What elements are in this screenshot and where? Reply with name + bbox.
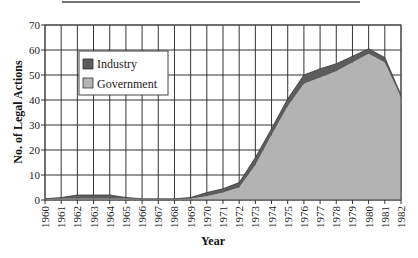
y-tick-label: 30 [29, 119, 41, 131]
y-axis-ticks: 010203040506070 [29, 19, 45, 206]
x-tick-label: 1978 [330, 206, 342, 229]
y-tick-label: 0 [35, 194, 41, 206]
x-tick-label: 1973 [249, 206, 261, 229]
x-tick-label: 1967 [152, 206, 164, 229]
x-tick-label: 1963 [88, 206, 100, 229]
x-tick-label: 1970 [201, 206, 213, 229]
y-tick-label: 70 [29, 19, 41, 31]
y-tick-label: 60 [29, 44, 41, 56]
legend-swatch-industry [83, 59, 93, 69]
x-tick-label: 1972 [233, 206, 245, 228]
x-tick-label: 1968 [168, 206, 180, 229]
x-tick-label: 1964 [104, 206, 116, 229]
x-tick-label: 1969 [185, 206, 197, 229]
x-tick-label: 1982 [395, 206, 407, 228]
x-tick-label: 1966 [136, 206, 148, 229]
chart: 010203040506070 196019611962196319641965… [0, 0, 418, 258]
x-tick-label: 1980 [363, 206, 375, 229]
x-tick-label: 1974 [266, 206, 278, 229]
x-tick-label: 1977 [314, 206, 326, 229]
x-axis-title: Year [201, 234, 226, 248]
y-tick-label: 10 [29, 169, 41, 181]
y-tick-label: 50 [29, 69, 41, 81]
y-axis-title: No. of Legal Actions [11, 60, 25, 164]
legend: Industry Government [79, 51, 168, 95]
legend-swatch-government [83, 78, 93, 88]
x-tick-label: 1979 [346, 206, 358, 229]
x-tick-label: 1965 [120, 206, 132, 229]
x-tick-label: 1962 [71, 206, 83, 228]
legend-label-industry: Industry [97, 57, 137, 71]
y-tick-label: 20 [29, 144, 41, 156]
x-tick-label: 1971 [217, 206, 229, 228]
x-tick-label: 1981 [379, 206, 391, 228]
x-tick-label: 1961 [55, 206, 67, 228]
x-tick-label: 1976 [298, 206, 310, 229]
x-axis-ticks: 1960196119621963196419651966196719681969… [39, 200, 407, 228]
x-tick-label: 1975 [282, 206, 294, 229]
legend-label-government: Government [97, 77, 158, 91]
y-tick-label: 40 [29, 94, 41, 106]
x-tick-label: 1960 [39, 206, 51, 229]
